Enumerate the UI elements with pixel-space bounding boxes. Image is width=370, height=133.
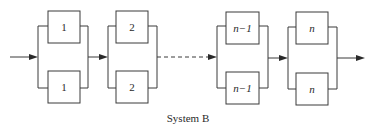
arrowhead-icon bbox=[29, 54, 38, 60]
component-label: n bbox=[309, 83, 315, 95]
diagram-caption: System B bbox=[167, 112, 209, 124]
component-label: 2 bbox=[129, 81, 135, 93]
output-arrow bbox=[337, 55, 365, 61]
stage-1-bottom-component: 1 bbox=[48, 71, 80, 103]
connector-n-minus-1-n bbox=[268, 55, 288, 61]
arrowhead-icon bbox=[208, 54, 217, 60]
component-label: 1 bbox=[61, 21, 67, 33]
stage-n-bottom-component: n bbox=[296, 73, 328, 105]
arrowhead-icon bbox=[356, 55, 365, 61]
stage-n-top-component: n bbox=[296, 12, 328, 44]
component-label: 2 bbox=[129, 21, 135, 33]
system-b-diagram: 1 1 2 2 bbox=[0, 0, 370, 133]
component-label: n−1 bbox=[233, 82, 251, 94]
stage-n-minus-1-top-component: n−1 bbox=[226, 12, 259, 44]
connector-1-2 bbox=[88, 54, 108, 60]
connector-dashed-ellipsis bbox=[157, 54, 217, 60]
component-label: n−1 bbox=[233, 22, 251, 34]
stage-n-minus-1-bottom-component: n−1 bbox=[226, 72, 259, 104]
arrowhead-icon bbox=[279, 55, 288, 61]
stage-2-bottom-component: 2 bbox=[116, 71, 148, 103]
input-arrow bbox=[10, 54, 38, 60]
stage-2-top-component: 2 bbox=[116, 11, 148, 43]
arrowhead-icon bbox=[99, 54, 108, 60]
component-label: n bbox=[309, 22, 315, 34]
stage-2-parallel-block: 2 2 bbox=[108, 11, 157, 103]
stage-n-minus-1-parallel-block: n−1 n−1 bbox=[217, 12, 268, 104]
component-label: 1 bbox=[61, 81, 67, 93]
stage-1-top-component: 1 bbox=[48, 11, 80, 43]
stage-n-parallel-block: n n bbox=[288, 12, 337, 105]
stage-1-parallel-block: 1 1 bbox=[38, 11, 88, 103]
